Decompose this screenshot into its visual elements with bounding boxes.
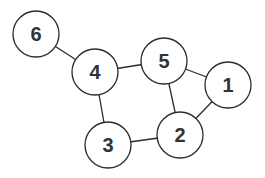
node-2: 2 [157, 112, 203, 158]
node-label: 6 [30, 23, 41, 45]
graph-diagram: 123456 [0, 0, 265, 178]
node-1: 1 [205, 62, 251, 108]
node-5: 5 [141, 38, 187, 84]
node-label: 1 [222, 74, 233, 96]
node-label: 3 [102, 134, 113, 156]
node-6: 6 [13, 11, 59, 57]
node-4: 4 [72, 49, 118, 95]
node-label: 4 [89, 61, 101, 83]
node-3: 3 [85, 122, 131, 168]
node-label: 2 [174, 124, 185, 146]
node-label: 5 [158, 50, 169, 72]
nodes-layer: 123456 [13, 11, 251, 168]
